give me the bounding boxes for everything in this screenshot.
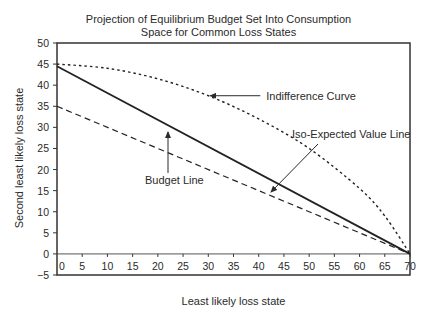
y-tick-label: 40 [37,79,49,91]
x-tick-label: 15 [127,260,139,272]
x-tick-label: 10 [102,260,114,272]
x-tick-label: 0 [59,260,65,272]
y-tick-label: 5 [43,227,49,239]
x-tick-label: 55 [329,260,341,272]
x-tick-label: 45 [278,260,290,272]
series-budget-line [57,66,410,254]
chart-plot: −505101520253035404550051015202530354045… [0,0,437,319]
x-tick-label: 65 [379,260,391,272]
annotation-label-iso-expected: Iso-Expected Value Line [292,128,410,140]
y-tick-label: 20 [37,164,49,176]
y-tick-label: −5 [37,269,49,281]
y-tick-label: 30 [37,121,49,133]
x-tick-label: 40 [253,260,265,272]
y-tick-label: 10 [37,206,49,218]
y-tick-label: 0 [43,248,49,260]
annotation-label-budget: Budget Line [145,174,204,186]
x-tick-label: 25 [177,260,189,272]
x-axis-title: Least likely loss state [0,295,437,307]
x-tick-label: 35 [228,260,240,272]
x-tick-label: 60 [354,260,366,272]
x-tick-label: 70 [404,260,416,272]
y-tick-label: 15 [37,185,49,197]
x-tick-label: 5 [79,260,85,272]
annotation-arrow-iso-expected [271,144,318,192]
x-tick-label: 30 [202,260,214,272]
x-tick-label: 20 [152,260,164,272]
annotation-label-indifference: Indifference Curve [266,90,356,102]
plot-frame [57,43,410,275]
y-tick-label: 50 [37,37,49,49]
y-tick-label: 25 [37,142,49,154]
x-tick-label: 50 [303,260,315,272]
y-tick-label: 45 [37,58,49,70]
y-axis-title: Second least likely loss state [13,83,25,233]
y-tick-label: 35 [37,100,49,112]
